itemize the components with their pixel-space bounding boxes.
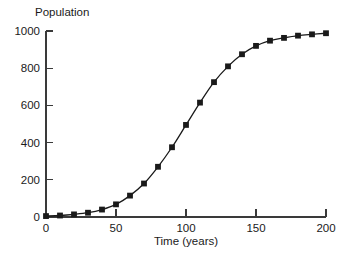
x-tick-label-150: 150 bbox=[246, 222, 265, 234]
data-point-marker bbox=[85, 210, 91, 216]
series-group bbox=[43, 30, 329, 219]
data-point-marker bbox=[211, 79, 217, 85]
data-point-marker bbox=[295, 33, 301, 39]
data-point-marker bbox=[99, 207, 105, 213]
y-axis-group: 02004006008001000 bbox=[14, 25, 53, 223]
data-point-marker bbox=[113, 201, 119, 207]
chart-container: 02004006008001000 050100150200 Populatio… bbox=[0, 0, 352, 253]
data-point-marker bbox=[281, 35, 287, 41]
x-tick-label-0: 0 bbox=[43, 222, 49, 234]
data-point-marker bbox=[169, 144, 175, 150]
x-tick-label-50: 50 bbox=[110, 222, 123, 234]
y-axis-ticks bbox=[46, 31, 53, 217]
data-point-marker bbox=[71, 212, 77, 218]
population-growth-chart: 02004006008001000 050100150200 Populatio… bbox=[0, 0, 352, 253]
data-point-marker bbox=[267, 38, 273, 44]
y-axis-tick-labels: 02004006008001000 bbox=[14, 25, 40, 223]
data-point-marker bbox=[127, 193, 133, 199]
data-point-marker bbox=[323, 30, 329, 36]
data-point-marker bbox=[253, 43, 259, 49]
y-tick-label-0: 0 bbox=[34, 211, 40, 223]
x-axis-tick-labels: 050100150200 bbox=[43, 222, 336, 234]
data-point-marker bbox=[141, 181, 147, 187]
data-point-marker bbox=[155, 164, 161, 170]
y-tick-label-400: 400 bbox=[21, 137, 40, 149]
x-tick-label-100: 100 bbox=[176, 222, 195, 234]
data-point-marker bbox=[197, 100, 203, 106]
y-tick-label-200: 200 bbox=[21, 174, 40, 186]
y-tick-label-800: 800 bbox=[21, 62, 40, 74]
y-tick-label-1000: 1000 bbox=[14, 25, 40, 37]
data-point-marker bbox=[225, 63, 231, 69]
x-axis-title: Time (years) bbox=[154, 235, 218, 247]
data-point-marker bbox=[43, 213, 49, 219]
x-tick-label-200: 200 bbox=[316, 222, 335, 234]
data-point-marker bbox=[183, 122, 189, 128]
data-point-marker bbox=[239, 51, 245, 57]
data-point-markers bbox=[43, 30, 329, 219]
y-axis-title: Population bbox=[35, 6, 89, 18]
data-point-marker bbox=[309, 31, 315, 37]
y-tick-label-600: 600 bbox=[21, 99, 40, 111]
data-point-marker bbox=[57, 213, 63, 219]
